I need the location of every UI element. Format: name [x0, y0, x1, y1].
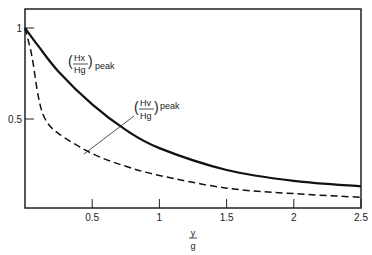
x-axis-label: y g	[189, 228, 197, 251]
svg-text:): )	[88, 53, 93, 69]
svg-text:Hv: Hv	[140, 98, 151, 108]
plot-frame	[25, 9, 361, 208]
svg-text:(: (	[134, 99, 139, 115]
annotation-hv: ( Hv Hg ) peak	[84, 98, 180, 154]
x-tick-label: 2.5	[354, 212, 368, 223]
y-tick-label: 0.5	[8, 114, 22, 125]
svg-text:g: g	[190, 241, 195, 251]
leader-line	[84, 116, 134, 154]
annotation-hx: ( Hx Hg ) peak	[68, 53, 115, 75]
hx-curve	[25, 28, 361, 186]
svg-text:): )	[154, 99, 159, 115]
svg-text:peak: peak	[95, 61, 115, 71]
x-tick-label: 0.5	[85, 212, 99, 223]
x-tick-label: 1	[157, 212, 163, 223]
svg-text:(: (	[68, 53, 73, 69]
svg-text:Hg: Hg	[140, 111, 152, 121]
svg-text:y: y	[191, 228, 196, 238]
x-tick-label: 1.5	[220, 212, 234, 223]
svg-text:Hx: Hx	[74, 53, 85, 63]
y-tick-label: 1	[16, 23, 22, 34]
svg-text:Hg: Hg	[74, 65, 86, 75]
svg-text:peak: peak	[160, 101, 180, 111]
axis-ticks: 0.511.522.50.51	[8, 23, 368, 223]
chart: 0.511.522.50.51 ( Hx Hg ) peak ( Hv Hg )…	[0, 0, 372, 255]
x-tick-label: 2	[291, 212, 297, 223]
